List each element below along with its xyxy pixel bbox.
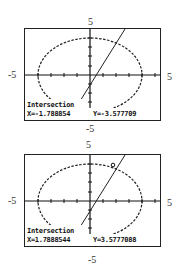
y-readout: Y=-3.577709: [93, 111, 136, 118]
x-min-label: -5: [8, 196, 16, 206]
x-readout: X=1.7888544: [27, 237, 70, 244]
x-max-label: 5: [167, 198, 172, 208]
graph-window: Intersection X=-1.788854 Y=-3.577709: [24, 28, 161, 121]
y-max-label: 5: [86, 140, 91, 150]
intersection-label: Intersection: [27, 102, 74, 109]
y-min-label: -5: [88, 255, 96, 265]
intersection-label: Intersection: [27, 228, 74, 235]
intersection-cursor: [111, 163, 115, 167]
x-readout: X=-1.788854: [27, 111, 70, 118]
x-max-label: 5: [167, 72, 172, 82]
x-min-label: -5: [8, 70, 16, 80]
y-max-label: 5: [88, 17, 93, 27]
y-min-label: -5: [86, 124, 94, 134]
graph-window: Intersection X=1.7888544 Y=3.5777088: [24, 154, 161, 247]
y-readout: Y=3.5777088: [93, 237, 136, 244]
